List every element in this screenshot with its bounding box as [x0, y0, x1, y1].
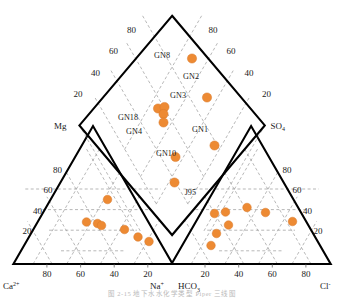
cation-bottom-tick-3: 20: [143, 269, 153, 279]
anion-bottom-tick-3: 80: [301, 269, 311, 279]
piper-diagram-figure: 80 60 40 20 80 60 40 20: [0, 0, 344, 301]
data-point: [159, 118, 168, 127]
point-label-gn8: GN8: [154, 51, 170, 60]
data-point: [207, 241, 216, 250]
diamond-ur-tick-2: 40: [245, 68, 255, 78]
na-axis-label-charge: +: [161, 281, 165, 287]
data-point: [202, 93, 211, 102]
point-label-gn4: GN4: [126, 127, 142, 136]
cation-bottom-tick-1: 60: [76, 269, 86, 279]
cation-left-axis-ticks: 80 60 40 20: [23, 165, 63, 237]
point-label-gn1: GN1: [192, 125, 208, 134]
mg-axis-label-text: Mg: [54, 121, 67, 131]
data-point: [210, 141, 219, 150]
data-point: [170, 178, 179, 187]
diamond-ul-tick-3: 20: [74, 89, 84, 99]
cation-bottom-tick-0: 80: [42, 269, 52, 279]
anion-right-tick-3: 20: [314, 226, 324, 236]
data-point: [243, 203, 252, 212]
so4-axis-label-text: SO: [271, 121, 283, 131]
data-point: [187, 54, 196, 63]
cation-grid: [25, 148, 160, 264]
so4-axis-label: SO4: [271, 121, 286, 133]
anion-bottom-tick-2: 60: [268, 269, 278, 279]
cl-axis-label-charge: -: [329, 281, 331, 287]
data-point: [120, 225, 129, 234]
piper-plot-svg: 80 60 40 20 80 60 40 20: [0, 0, 344, 301]
cation-left-tick-1: 60: [44, 185, 54, 195]
data-point: [221, 208, 230, 217]
data-point: [103, 195, 112, 204]
ca-axis-label-charge: 2+: [13, 281, 20, 287]
cation-triangle: [13, 126, 172, 267]
data-point: [212, 229, 221, 238]
cation-left-tick-3: 20: [23, 226, 33, 236]
data-point: [134, 233, 143, 242]
anion-right-tick-0: 80: [283, 165, 293, 175]
so4-axis-label-sub: 4: [282, 126, 285, 132]
data-point: [261, 208, 270, 217]
data-point: [210, 209, 219, 218]
point-label-gn2: GN2: [183, 72, 199, 81]
point-label-gn18: GN18: [118, 113, 138, 122]
anion-right-tick-2: 40: [303, 206, 313, 216]
cation-bottom-tick-2: 40: [110, 269, 120, 279]
anion-bottom-axis-ticks: 20 40 60 80: [201, 269, 311, 279]
cation-left-tick-0: 80: [53, 165, 63, 175]
data-point: [97, 221, 106, 230]
point-label-gn3: GN3: [170, 91, 186, 100]
diamond-ul-tick-2: 40: [91, 68, 101, 78]
data-point: [224, 221, 233, 230]
diamond-upper-right-ticks: 80 60 40 20: [209, 25, 272, 99]
cation-left-tick-2: 40: [33, 206, 43, 216]
point-label-j95: J95: [185, 188, 196, 197]
anion-right-tick-1: 60: [293, 185, 303, 195]
data-point: [82, 218, 91, 227]
anion-data-points: [207, 203, 297, 250]
data-point: [288, 217, 297, 226]
diamond-ul-tick-1: 60: [109, 46, 119, 56]
diamond-ur-tick-3: 20: [262, 89, 272, 99]
data-point: [159, 109, 168, 118]
data-point: [145, 237, 154, 246]
figure-caption: 图 2-15 地下水水化学类型 Piper 三线图: [0, 289, 344, 298]
anion-bottom-tick-1: 40: [234, 269, 244, 279]
cation-bottom-axis-ticks: 80 60 40 20: [42, 269, 152, 279]
point-label-gn10: GN10: [156, 149, 176, 158]
diamond-upper-left-ticks: 80 60 40 20: [74, 25, 137, 99]
diamond-ur-tick-0: 80: [209, 25, 219, 35]
diamond-ur-tick-1: 60: [227, 46, 237, 56]
anion-bottom-tick-0: 20: [201, 269, 211, 279]
mg-axis-label: Mg: [54, 121, 67, 131]
diamond-ul-tick-0: 80: [127, 25, 137, 35]
